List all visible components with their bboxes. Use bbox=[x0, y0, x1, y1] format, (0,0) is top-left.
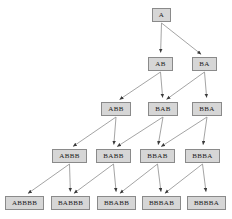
graph-node[interactable]: BBAB bbox=[140, 149, 175, 163]
graph-edge bbox=[161, 117, 207, 147]
graph-edge bbox=[120, 72, 161, 99]
graph-edge bbox=[203, 117, 207, 145]
graph-node[interactable]: A bbox=[152, 8, 171, 22]
graph-edge bbox=[161, 23, 162, 53]
graph-node-label: BBBAB bbox=[149, 200, 174, 207]
graph-edge bbox=[161, 72, 163, 98]
graph-node[interactable]: AB bbox=[148, 57, 173, 71]
graph-edge bbox=[162, 23, 202, 54]
graph-node-label: ABBBB bbox=[12, 200, 37, 207]
graph-node[interactable]: BBBBA bbox=[187, 196, 226, 210]
graph-node-label: ABBB bbox=[59, 153, 79, 160]
graph-edge bbox=[165, 164, 202, 193]
graph-node[interactable]: BBBA bbox=[185, 149, 220, 163]
graph-edge bbox=[205, 72, 207, 98]
graph-edge bbox=[158, 117, 163, 145]
graph-edge bbox=[70, 164, 71, 192]
graph-node-label: ABB bbox=[108, 106, 123, 113]
graph-edge bbox=[28, 164, 69, 193]
graph-node-label: BAB bbox=[155, 106, 170, 113]
graph-node-label: BBA bbox=[199, 106, 214, 113]
graph-node[interactable]: BBA bbox=[192, 102, 222, 116]
graph-node-label: BBBBA bbox=[194, 200, 219, 207]
graph-node[interactable]: ABBB bbox=[52, 149, 87, 163]
graph-node-label: AB bbox=[155, 61, 165, 68]
graph-node-label: BA bbox=[199, 61, 209, 68]
graph-node[interactable]: ABB bbox=[101, 102, 131, 116]
graph-edge bbox=[73, 117, 116, 146]
graph-edge bbox=[158, 164, 161, 192]
graph-node-label: BABBB bbox=[58, 200, 83, 207]
graph-node[interactable]: ABBBB bbox=[5, 196, 44, 210]
graph-edge bbox=[114, 117, 116, 145]
graph-node[interactable]: BABB bbox=[96, 149, 131, 163]
graph-edge bbox=[74, 164, 113, 193]
graph-edge bbox=[114, 164, 117, 192]
graph-edge bbox=[117, 117, 163, 147]
graph-node[interactable]: BBABB bbox=[97, 196, 136, 210]
graph-edge bbox=[120, 164, 157, 193]
graph-node-label: BBABB bbox=[104, 200, 129, 207]
graph-edge bbox=[203, 164, 206, 192]
graph-node-label: BBAB bbox=[147, 153, 167, 160]
graph-node[interactable]: BABBB bbox=[51, 196, 90, 210]
graph-node-label: BBBA bbox=[192, 153, 212, 160]
graph-edge bbox=[167, 72, 205, 99]
graph-node[interactable]: BAB bbox=[148, 102, 178, 116]
graph-node[interactable]: BA bbox=[192, 57, 217, 71]
graph-canvas: AABBAABBBABBBAABBBBABBBBABBBBAABBBBBABBB… bbox=[0, 0, 232, 219]
graph-node-label: A bbox=[159, 12, 164, 19]
graph-node-label: BABB bbox=[103, 153, 123, 160]
graph-node[interactable]: BBBAB bbox=[142, 196, 181, 210]
